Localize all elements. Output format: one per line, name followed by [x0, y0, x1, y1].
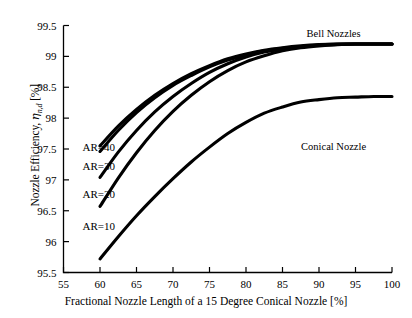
y-axis-label-suffix: [%] [29, 84, 41, 104]
eta-subscript: n,d [35, 104, 44, 114]
y-tick-label: 95.5 [37, 267, 57, 279]
x-axis-label: Fractional Nozzle Length of a 15 Degree … [0, 295, 412, 307]
nozzle-efficiency-chart: 556065707580859095100 95.59696.59797.598… [0, 0, 412, 318]
curve-ar-10 [100, 44, 392, 206]
x-tick-label: 90 [314, 278, 326, 290]
x-tick-label: 75 [204, 278, 216, 290]
x-tick-label: 85 [277, 278, 289, 290]
annotation-ar-30: AR=30 [82, 160, 115, 172]
annotation-ar-20: AR=20 [82, 188, 115, 200]
y-axis-label-prefix: Nozzle Efficiency, [29, 120, 41, 206]
chart-canvas: 556065707580859095100 95.59696.59797.598… [0, 0, 412, 318]
annotation-conical-nozzle: Conical Nozzle [301, 141, 366, 152]
x-axis-tick-labels: 556065707580859095100 [58, 278, 401, 290]
y-axis-ticks [64, 26, 70, 273]
annotation-ar-40: AR=40 [82, 141, 115, 153]
x-tick-label: 60 [95, 278, 107, 290]
annotation-ar-10: AR=10 [82, 220, 115, 232]
curve-ar-20 [100, 44, 392, 177]
x-tick-label: 100 [384, 278, 401, 290]
y-tick-label: 99 [46, 50, 58, 62]
y-tick-label: 99.5 [37, 20, 57, 32]
annotation-bell-nozzles: Bell Nozzles [307, 28, 361, 39]
x-tick-label: 65 [131, 278, 143, 290]
x-tick-label: 70 [168, 278, 180, 290]
x-tick-label: 95 [350, 278, 362, 290]
y-tick-label: 98 [46, 112, 58, 124]
y-axis-label: Nozzle Efficiency, ηn,d [%] [28, 35, 44, 255]
y-tick-label: 97 [46, 174, 58, 186]
x-axis-ticks [64, 267, 393, 273]
x-tick-label: 80 [241, 278, 253, 290]
x-tick-label: 55 [58, 278, 70, 290]
curve-ar-40 [100, 44, 392, 146]
y-tick-label: 96 [46, 236, 58, 248]
plot-axes: 556065707580859095100 95.59696.59797.598… [37, 20, 401, 290]
eta-symbol: η [28, 113, 42, 120]
